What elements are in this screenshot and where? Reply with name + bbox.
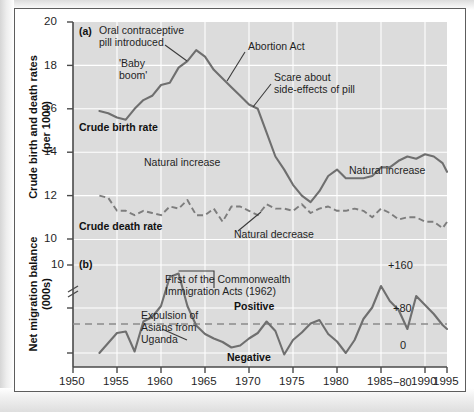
label-crude-death-rate: Crude death rate — [79, 220, 162, 232]
panel-a-y-axis-title: Crude birth and death rates(per 1000) — [27, 17, 53, 237]
annotation-abortion-act: Abortion Act — [248, 40, 305, 52]
panel-b-y-ticks — [67, 265, 73, 353]
label-positive: Positive — [234, 300, 274, 312]
figure-page: Crude birth and death rates(per 1000) 20… — [0, 0, 474, 412]
page-edge-shadow-left — [0, 0, 14, 412]
panel-b-y-axis-title-line1: Net migration balance — [27, 237, 39, 352]
panel-a-y-tick-20: 20 — [44, 15, 57, 29]
panel-a-y-tick-16: 16 — [44, 102, 57, 116]
annotation-commonwealth-act-line2: Immigration Acts (1962) — [165, 285, 276, 297]
panel-b-value-label-plus80: +80 — [393, 302, 412, 315]
x-tick-1995: 1995 — [433, 375, 459, 389]
annotation-uganda-line3: Uganda — [141, 333, 178, 345]
annotation-commonwealth-act-line1: First of the Commonwealth — [165, 273, 290, 285]
annotation-scare-line2: side-effects of pill — [274, 83, 355, 95]
x-tick-1975: 1975 — [279, 375, 305, 389]
panel-b-value-label-plus160: +160 — [388, 259, 413, 272]
panel-a-y-ticks — [67, 22, 73, 239]
annotation-baby-boom-line2: boom' — [119, 69, 147, 81]
panel-b-y-tick-10: 10 — [51, 258, 64, 272]
panel-a-y-tick-12: 12 — [44, 189, 57, 203]
annotation-natural-increase-left: Natural increase — [144, 156, 220, 168]
label-crude-birth-rate: Crude birth rate — [79, 121, 158, 133]
annotation-uganda-line1: Expulsion of — [141, 309, 198, 321]
x-tick-1960: 1960 — [147, 375, 173, 389]
annotation-scare-line1: Scare about — [274, 71, 331, 83]
panel-a-y-tick-18: 18 — [44, 59, 57, 73]
annotation-natural-increase-right: Natural increase — [349, 164, 425, 176]
x-tick-1980: 1980 — [323, 375, 349, 389]
annotation-oral-contraceptive-line2: pill introduced — [99, 36, 164, 48]
x-axis-ticks — [73, 367, 447, 373]
chart-canvas — [15, 9, 467, 393]
panel-a-y-axis-title-line1: Crude birth and death rates — [27, 55, 39, 199]
panel-b-tag: (b) — [79, 258, 92, 270]
annotation-natural-decrease: Natural decrease — [234, 228, 314, 240]
annotation-baby-boom-line1: 'Baby — [119, 57, 145, 69]
x-tick-1955: 1955 — [103, 375, 129, 389]
x-tick-1950: 1950 — [59, 375, 85, 389]
panel-a-y-tick-14: 14 — [44, 145, 57, 159]
panel-b-value-label-zero: 0 — [400, 339, 406, 352]
figure-frame: Crude birth and death rates(per 1000) 20… — [14, 8, 466, 392]
panel-a-tag: (a) — [79, 25, 92, 37]
x-tick-1965: 1965 — [191, 375, 217, 389]
panel-b-value-label-minus80: −80 — [393, 376, 412, 389]
label-negative: Negative — [227, 351, 271, 363]
x-tick-1970: 1970 — [235, 375, 261, 389]
panel-b-y-axis-title-line2: (000s) — [40, 278, 52, 310]
annotation-oral-contraceptive-line1: Oral contraceptive — [99, 24, 184, 36]
annotation-uganda-line2: Asians from — [141, 321, 196, 333]
panel-b-y-axis-title: Net migration balance(000s) — [27, 224, 53, 364]
x-tick-1985: 1985 — [367, 375, 393, 389]
